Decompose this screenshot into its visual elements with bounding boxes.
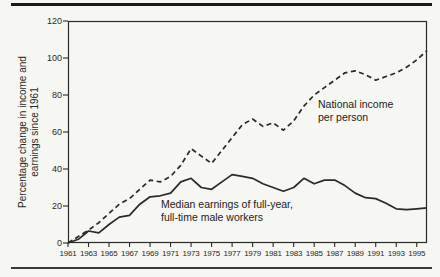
y-tick-label: 40: [36, 164, 62, 174]
annotation-median-earnings-line1: Median earnings of full-year,: [161, 198, 293, 211]
y-tick-label: 120: [36, 16, 62, 26]
y-tick-label: 0: [36, 238, 62, 248]
annotation-national-income-line1: National income: [318, 98, 393, 111]
y-tick-label: 80: [36, 90, 62, 100]
x-tick-label: 1995: [402, 249, 432, 258]
annotation-median-earnings-line2: full-time male workers: [161, 211, 293, 224]
annotation-national-income-line2: per person: [318, 111, 393, 124]
top-rule: [11, 3, 432, 6]
annotation-national-income: National income per person: [318, 98, 393, 124]
scanned-chart-page: Percentage change in income and earnings…: [0, 0, 440, 277]
y-axis-label-line1: Percentage change in income and: [17, 21, 29, 243]
y-tick-label: 20: [36, 201, 62, 211]
annotation-median-earnings: Median earnings of full-year, full-time …: [161, 198, 293, 224]
y-tick-label: 100: [36, 53, 62, 63]
plot-area: National income per person Median earnin…: [68, 21, 427, 243]
y-tick-label: 60: [36, 127, 62, 137]
bottom-rule: [11, 267, 432, 269]
